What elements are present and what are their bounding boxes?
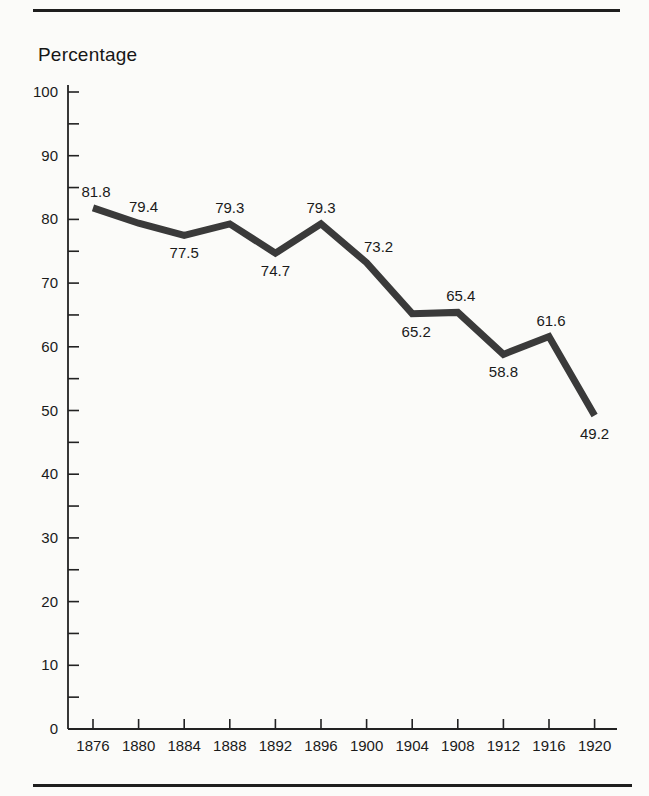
y-tick-label: 10: [41, 656, 58, 673]
data-label: 79.3: [215, 199, 244, 216]
data-label: 65.2: [402, 323, 431, 340]
y-tick-label: 70: [41, 274, 58, 291]
line-chart: 0102030405060708090100187618801884188818…: [0, 0, 649, 796]
data-label: 73.2: [364, 238, 393, 255]
x-tick-label: 1884: [168, 737, 201, 754]
x-tick-label: 1916: [532, 737, 565, 754]
y-tick-label: 0: [50, 720, 58, 737]
y-tick-label: 50: [41, 402, 58, 419]
x-tick-label: 1904: [396, 737, 429, 754]
x-tick-label: 1892: [259, 737, 292, 754]
data-label: 81.8: [81, 183, 110, 200]
data-line: [93, 208, 595, 416]
y-tick-label: 100: [33, 83, 58, 100]
y-tick-label: 60: [41, 338, 58, 355]
y-tick-label: 80: [41, 210, 58, 227]
data-label: 61.6: [536, 312, 565, 329]
data-label: 65.4: [446, 287, 475, 304]
y-tick-label: 40: [41, 465, 58, 482]
data-label: 58.8: [489, 363, 518, 380]
x-tick-label: 1900: [350, 737, 383, 754]
x-tick-label: 1888: [213, 737, 246, 754]
data-label: 79.3: [306, 199, 335, 216]
x-tick-label: 1880: [122, 737, 155, 754]
data-label: 49.2: [580, 425, 609, 442]
x-tick-label: 1876: [76, 737, 109, 754]
x-tick-label: 1912: [487, 737, 520, 754]
x-tick-label: 1920: [578, 737, 611, 754]
data-label: 74.7: [261, 262, 290, 279]
data-label: 79.4: [129, 198, 158, 215]
y-tick-label: 20: [41, 593, 58, 610]
y-tick-label: 30: [41, 529, 58, 546]
y-tick-label: 90: [41, 147, 58, 164]
data-label: 77.5: [170, 244, 199, 261]
x-tick-label: 1908: [441, 737, 474, 754]
bottom-rule: [33, 784, 632, 787]
x-tick-label: 1896: [304, 737, 337, 754]
